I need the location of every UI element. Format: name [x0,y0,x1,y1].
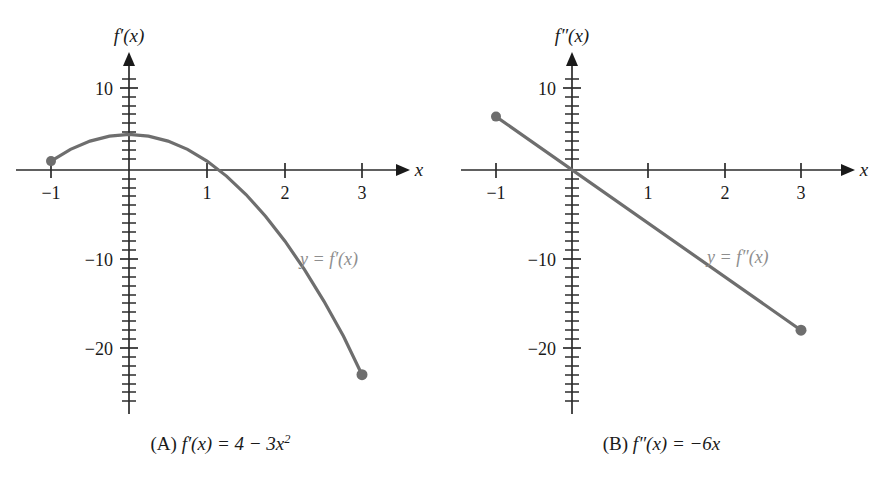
panel-b: −1 1 2 3 10 −10 −20 f″(x) x y = f″(x) (B… [441,0,882,488]
caption-a: (A) f′(x) = 4 − 3x2 [0,432,441,455]
x-tick-label-3-a: 3 [358,183,367,203]
y-tick-label-neg20-b: −20 [528,339,556,359]
caption-label-b: (B) [603,433,628,454]
curve-endpoint-left-b [491,112,501,122]
y-tick-label-neg10-a: −10 [85,250,113,270]
y-axis-arrow-b [566,52,578,66]
curve-annotation-b: y = f″(x) [705,247,769,268]
y-tick-label-neg10-b: −10 [528,250,556,270]
y-axis-label-a: f′(x) [114,25,145,47]
x-axis-arrow-a [396,164,410,176]
y-axis-label-b: f″(x) [555,25,589,47]
x-tick-label-2-a: 2 [281,183,290,203]
curve-endpoint-left-a [46,156,56,166]
x-tick-label-neg1-b: −1 [486,183,505,203]
caption-expression-b: f″(x) = −6x [633,433,720,454]
x-tick-label-neg1-a: −1 [41,183,60,203]
x-tick-label-1-b: 1 [644,183,653,203]
x-tick-label-1-a: 1 [203,183,212,203]
caption-exponent-a: 2 [284,432,290,446]
y-tick-label-10-b: 10 [538,79,556,99]
panel-a: −1 1 2 3 10 −10 −20 f′(x) x y = f′(x) (A… [0,0,441,488]
y-tick-label-neg20-a: −20 [85,339,113,359]
caption-label-a: (A) [151,433,177,454]
plot-a: −1 1 2 3 10 −10 −20 f′(x) x y = f′(x) [0,0,441,430]
x-axis-arrow-b [841,164,855,176]
plot-b: −1 1 2 3 10 −10 −20 f″(x) x y = f″(x) [441,0,882,430]
curve-annotation-a: y = f′(x) [298,249,358,270]
y-axis-arrow-a [123,52,135,66]
x-tick-label-3-b: 3 [797,183,806,203]
x-axis-label-b: x [859,159,869,180]
y-tick-label-10-a: 10 [95,79,113,99]
x-axis-label-a: x [414,159,424,180]
figure-container: −1 1 2 3 10 −10 −20 f′(x) x y = f′(x) (A… [0,0,882,488]
x-tick-label-2-b: 2 [721,183,730,203]
caption-expression-a: f′(x) = 4 − 3x [182,433,285,454]
curve-f-double-prime [496,117,801,331]
caption-b: (B) f″(x) = −6x [441,432,882,455]
curve-endpoint-right-a [357,369,368,380]
curve-endpoint-right-b [796,325,807,336]
